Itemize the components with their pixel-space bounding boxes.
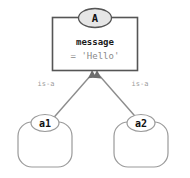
diagram-canvas: is-a is-a A message = 'Hello' a1 a2: [0, 0, 190, 178]
instance-node-a2[interactable]: a2: [114, 115, 168, 168]
attribute-value: = 'Hello': [71, 51, 120, 61]
instance-node-a1[interactable]: a1: [18, 115, 72, 168]
instance-node-name-a1: a1: [39, 118, 51, 129]
diagram-svg: is-a is-a A message = 'Hello' a1 a2: [0, 0, 190, 178]
instance-node-name-a2: a2: [135, 118, 147, 129]
edge-label-right: is-a: [132, 80, 149, 88]
class-node-A[interactable]: A message = 'Hello': [53, 9, 138, 71]
class-node-name: A: [92, 12, 99, 24]
edge-label-left: is-a: [38, 80, 55, 88]
attribute-name: message: [76, 37, 115, 47]
edge-line-left: [49, 74, 92, 123]
